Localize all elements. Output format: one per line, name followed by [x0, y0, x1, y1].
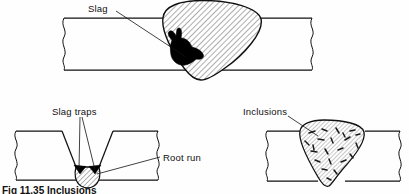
welding-defects-diagram	[0, 0, 409, 194]
slag-traps-leader-left	[79, 117, 80, 170]
panel-bottom-right-weld	[266, 116, 401, 186]
groove-bevel-right	[99, 131, 113, 167]
figure-caption: Fig 11.35 Inclusions	[2, 185, 96, 194]
label-slag: Slag	[88, 3, 108, 14]
groove-break-line-right	[157, 131, 159, 180]
incl-break-line-right	[399, 131, 401, 181]
break-line-right	[311, 18, 313, 70]
break-line-left	[63, 18, 65, 70]
slag-traps-leader-right	[82, 117, 95, 170]
label-inclusions: Inclusions	[243, 106, 287, 117]
root-run-leader-line	[97, 157, 160, 174]
panel-bottom-left-groove	[15, 117, 160, 188]
groove-break-line-left	[15, 131, 17, 180]
figure-canvas: Slag Slag traps Root run Inclusions Fig …	[0, 0, 409, 194]
label-root-run: Root run	[163, 152, 201, 163]
label-slag-traps: Slag traps	[52, 106, 97, 117]
incl-break-line-left	[266, 131, 268, 181]
groove-bevel-left	[62, 131, 76, 167]
